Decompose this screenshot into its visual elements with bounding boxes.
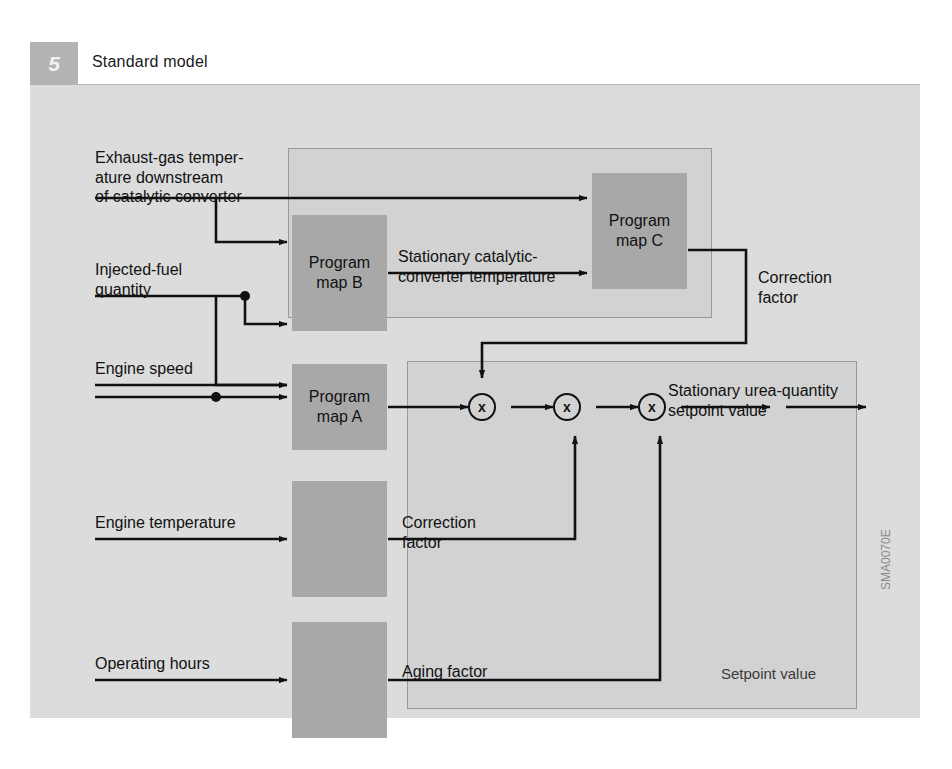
figure-body: Setpoint value xyxy=(30,85,920,718)
program-map-c-label: Program map C xyxy=(609,211,670,250)
operating-hours-curve-block[interactable] xyxy=(292,622,387,738)
junction-dot-injected-fuel xyxy=(240,291,250,301)
signal-label-stationary-cat-temperature: Stationary catalytic- converter temperat… xyxy=(398,247,555,286)
multiplier-2-symbol: x xyxy=(563,399,571,415)
signal-label-correction-factor-map-c: Correction factor xyxy=(758,268,832,307)
multiplier-3[interactable]: x xyxy=(638,393,666,421)
signal-label-output: Stationary urea-quantity setpoint value xyxy=(668,381,838,420)
figure-number-badge: 5 xyxy=(30,42,78,85)
program-map-b-block[interactable]: Program map B xyxy=(292,215,387,331)
multiplier-3-symbol: x xyxy=(648,399,656,415)
program-map-a-block[interactable]: Program map A xyxy=(292,364,387,450)
program-map-a-label: Program map A xyxy=(309,387,370,426)
input-label-engine-temperature: Engine temperature xyxy=(95,513,236,533)
program-map-b-label: Program map B xyxy=(309,253,370,292)
multiplier-2[interactable]: x xyxy=(553,393,581,421)
multiplier-1[interactable]: x xyxy=(468,393,496,421)
program-map-c-block[interactable]: Program map C xyxy=(592,173,687,289)
figure-header: 5 Standard model xyxy=(30,42,920,85)
multiplier-1-symbol: x xyxy=(478,399,486,415)
signal-label-aging-factor: Aging factor xyxy=(402,662,487,682)
signal-label-correction-factor-engine-temp: Correction factor xyxy=(402,513,476,552)
input-label-exhaust-gas-temperature: Exhaust-gas temper- ature downstream of … xyxy=(95,148,244,207)
figure-title: Standard model xyxy=(92,53,208,71)
setpoint-value-panel-caption: Setpoint value xyxy=(721,665,816,682)
input-label-engine-speed: Engine speed xyxy=(95,359,193,379)
input-label-operating-hours: Operating hours xyxy=(95,654,210,674)
figure-code: SMA0070E xyxy=(879,529,893,590)
input-label-injected-fuel-quantity: Injected-fuel quantity xyxy=(95,260,182,299)
figure-root: 5 Standard model Setpoint value xyxy=(0,0,952,769)
junction-dot-engine-speed xyxy=(211,392,221,402)
engine-temperature-curve-block[interactable] xyxy=(292,481,387,597)
figure-card: 5 Standard model Setpoint value xyxy=(30,42,920,718)
